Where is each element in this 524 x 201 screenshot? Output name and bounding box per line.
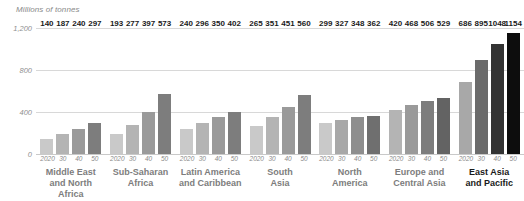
x-axis-tick-label: 30: [266, 155, 279, 165]
bar-slot: 402: [228, 28, 241, 154]
bar-slot: 350: [212, 28, 225, 154]
bar[interactable]: 397: [142, 112, 155, 154]
bar-slot: 193: [110, 28, 123, 154]
bar-slot: 351: [266, 28, 279, 154]
bar-slot: 240: [72, 28, 85, 154]
bar[interactable]: 350: [212, 117, 225, 154]
bar-slot: 265: [250, 28, 263, 154]
bar-slot: 573: [158, 28, 171, 154]
bar[interactable]: 686: [459, 82, 472, 154]
bar[interactable]: 468: [405, 105, 418, 154]
bar[interactable]: 240: [72, 129, 85, 154]
bar-slot: 686: [459, 28, 472, 154]
group-caption-line: and North Africa: [37, 178, 105, 200]
x-axis-tick-label: 30: [56, 155, 69, 165]
bar[interactable]: 187: [56, 134, 69, 154]
bar-slot: 397: [142, 28, 155, 154]
bar-value-label: 193: [110, 19, 123, 28]
x-axis-tick-label: 40: [212, 155, 225, 165]
bar-value-label: 277: [126, 19, 139, 28]
x-axis-tick-label: 30: [126, 155, 139, 165]
x-axis-tick-label: 2020: [459, 155, 472, 165]
x-axis-tick-label: 2020: [180, 155, 193, 165]
bar[interactable]: 1048: [491, 44, 504, 154]
x-axis-tick-group: 2020304050: [315, 155, 385, 165]
bar-value-label: 140: [40, 19, 53, 28]
x-axis-tick-label: 50: [88, 155, 101, 165]
bar-value-label: 686: [458, 19, 471, 28]
group-caption-line: East Asia: [455, 167, 523, 178]
bar[interactable]: 506: [421, 101, 434, 154]
x-axis-tick-group: 2020304050: [175, 155, 245, 165]
bar-slot: 506: [421, 28, 434, 154]
group-caption-line: Europe and: [386, 167, 454, 178]
bar[interactable]: 299: [319, 123, 332, 154]
bar[interactable]: 351: [266, 117, 279, 154]
bar-slot: 187: [56, 28, 69, 154]
bar[interactable]: 327: [335, 120, 348, 154]
bar[interactable]: 193: [110, 134, 123, 154]
x-axis-labels: 2020304050202030405020203040502020304050…: [36, 155, 524, 165]
bar[interactable]: 895: [475, 60, 488, 154]
bar[interactable]: 240: [180, 129, 193, 154]
bar[interactable]: 362: [367, 116, 380, 154]
bar-groups: 1401872402971932773975732402963504022653…: [36, 28, 524, 154]
bar[interactable]: 451: [282, 107, 295, 154]
bar[interactable]: 265: [250, 126, 263, 154]
x-axis-tick-label: 30: [405, 155, 418, 165]
x-axis-tick-label: 2020: [389, 155, 402, 165]
bar-slot: 277: [126, 28, 139, 154]
x-axis-tick-label: 30: [335, 155, 348, 165]
bar-group: 265351451560: [245, 28, 315, 154]
bar-value-label: 348: [351, 19, 364, 28]
x-axis-tick-label: 50: [158, 155, 171, 165]
bar[interactable]: 529: [437, 98, 450, 154]
x-axis-tick-label: 2020: [319, 155, 332, 165]
group-caption-line: Asia: [246, 178, 314, 189]
bar[interactable]: 296: [196, 123, 209, 154]
bar-value-label: 297: [88, 19, 101, 28]
x-axis-tick-label: 40: [142, 155, 155, 165]
y-axis-tick-label: 1,200: [0, 24, 32, 33]
x-axis-tick-label: 2020: [40, 155, 53, 165]
bar-slot: 1048: [491, 28, 504, 154]
bar-chart: Millions of tonnes 04008001,200 14018724…: [0, 0, 524, 201]
group-caption-line: Latin America: [176, 167, 244, 178]
group-caption-line: and Pacific: [455, 178, 523, 189]
bar-slot: 1154: [507, 28, 520, 154]
bar-value-label: 351: [265, 19, 278, 28]
bar-value-label: 327: [335, 19, 348, 28]
x-axis-tick-label: 30: [475, 155, 488, 165]
bar-value-label: 265: [249, 19, 262, 28]
bar[interactable]: 402: [228, 112, 241, 154]
bar-slot: 296: [196, 28, 209, 154]
bar[interactable]: 573: [158, 94, 171, 154]
bar-value-label: 362: [367, 19, 380, 28]
bar-value-label: 350: [212, 19, 225, 28]
bar-value-label: 240: [72, 19, 85, 28]
group-caption-line: Sub-Saharan: [107, 167, 175, 178]
bar-value-label: 451: [281, 19, 294, 28]
y-axis-tick-label: 800: [0, 66, 32, 75]
bar[interactable]: 277: [126, 125, 139, 154]
group-caption: Middle Eastand North Africa: [36, 167, 106, 197]
x-axis-tick-group: 2020304050: [385, 155, 455, 165]
bar[interactable]: 140: [40, 139, 53, 154]
bar-slot: 297: [88, 28, 101, 154]
x-axis-tick-label: 40: [282, 155, 295, 165]
bar[interactable]: 297: [88, 123, 101, 154]
bar[interactable]: 348: [351, 117, 364, 154]
bar-value-label: 468: [405, 19, 418, 28]
group-caption: Europe andCentral Asia: [385, 167, 455, 197]
bar[interactable]: 560: [298, 95, 311, 154]
bar-value-label: 895: [474, 19, 487, 28]
bar-value-label: 402: [228, 19, 241, 28]
bar-value-label: 560: [297, 19, 310, 28]
x-axis-tick-label: 40: [351, 155, 364, 165]
bar-value-label: 299: [319, 19, 332, 28]
bar-value-label: 187: [56, 19, 69, 28]
x-axis-tick-group: 2020304050: [454, 155, 524, 165]
bar-slot: 451: [282, 28, 295, 154]
bar[interactable]: 420: [389, 110, 402, 154]
bar[interactable]: 1154: [507, 33, 520, 154]
